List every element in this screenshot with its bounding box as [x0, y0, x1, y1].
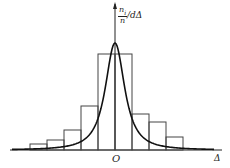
origin-label: O	[112, 153, 120, 164]
y-axis-label: ni n /dΔ	[118, 6, 142, 25]
histogram-bar	[64, 130, 81, 150]
histogram-bar	[98, 54, 115, 150]
histogram-bar	[132, 114, 149, 150]
histogram-bars	[30, 54, 183, 150]
chart-canvas	[0, 0, 230, 168]
y-axis-arrow-icon	[113, 2, 117, 9]
x-axis-label: Δ	[214, 153, 221, 163]
histogram-chart: ni n /dΔ O Δ	[0, 0, 230, 168]
histogram-bar	[81, 106, 98, 150]
histogram-bar	[115, 54, 132, 150]
density-curve	[12, 43, 214, 149]
